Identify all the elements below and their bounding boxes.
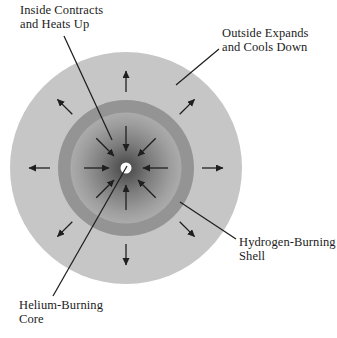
label-helium-core: Helium-Burning Core [19, 299, 103, 326]
label-helium-core-line1: Helium-Burning [19, 299, 103, 313]
label-hydrogen-shell-line1: Hydrogen-Burning [239, 236, 336, 250]
label-helium-core-line2: Core [19, 313, 103, 327]
label-outside-expands-line2: and Cools Down [222, 41, 309, 55]
label-inside-contracts: Inside Contracts and Heats Up [20, 4, 103, 31]
star-structure-diagram: Inside Contracts and Heats Up Outside Ex… [0, 0, 337, 338]
label-hydrogen-shell: Hydrogen-Burning Shell [239, 236, 336, 263]
label-outside-expands-line1: Outside Expands [222, 27, 309, 41]
label-outside-expands: Outside Expands and Cools Down [222, 27, 309, 54]
label-inside-contracts-line1: Inside Contracts [20, 4, 103, 18]
label-hydrogen-shell-line2: Shell [239, 250, 336, 264]
label-inside-contracts-line2: and Heats Up [20, 18, 103, 32]
